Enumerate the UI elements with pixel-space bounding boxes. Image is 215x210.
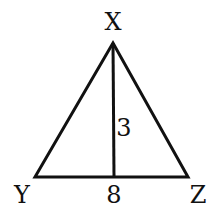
altitude-length-label: 3 xyxy=(116,116,131,140)
altitude-line xyxy=(113,43,114,177)
triangle-xyz xyxy=(35,43,188,177)
vertex-label-z: Z xyxy=(190,183,207,207)
base-length-label: 8 xyxy=(106,183,121,207)
vertex-label-y: Y xyxy=(14,183,30,207)
vertex-label-x: X xyxy=(104,10,121,34)
